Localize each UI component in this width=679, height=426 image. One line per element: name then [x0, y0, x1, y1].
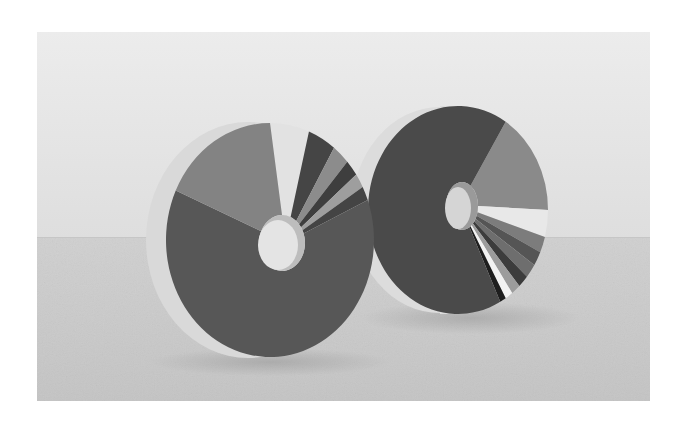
right-donut-sculpture	[352, 106, 548, 314]
left-donut-sculpture	[146, 122, 374, 358]
photograph	[0, 0, 679, 426]
donut-hole	[258, 220, 298, 270]
donut-hole	[445, 187, 471, 229]
